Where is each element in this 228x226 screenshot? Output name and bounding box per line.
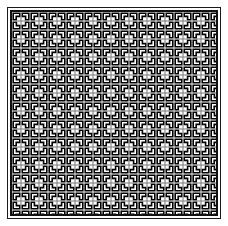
outer-frame: [7, 7, 221, 219]
inner-outline: [10, 10, 218, 216]
pattern-field: [12, 12, 216, 214]
pattern-fill-rect: [12, 12, 216, 214]
pattern-canvas: Geometric Tiling Pattern: [0, 0, 228, 226]
meander-pattern-svg: [12, 12, 216, 214]
